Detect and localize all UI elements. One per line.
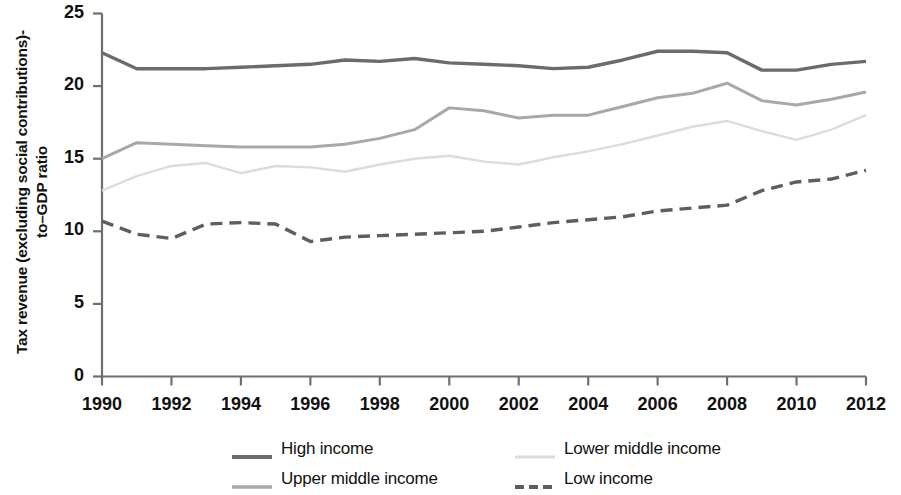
series-line-upper-middle-income bbox=[102, 83, 866, 159]
legend-label-high-income: High income bbox=[281, 439, 373, 459]
legend-label-low-income: Low income bbox=[564, 469, 653, 489]
series-line-high-income bbox=[102, 51, 866, 70]
legend-item-upper-middle-income[interactable]: Upper middle income bbox=[232, 469, 438, 489]
chart-legend: High income Lower middle income Upper mi… bbox=[232, 434, 792, 494]
series-line-low-income bbox=[102, 170, 866, 241]
series-line-lower-middle-income bbox=[102, 115, 866, 191]
data-series-group bbox=[102, 51, 866, 241]
legend-item-low-income[interactable]: Low income bbox=[515, 469, 653, 489]
legend-label-upper-middle-income: Upper middle income bbox=[281, 469, 438, 489]
chart-figure: Tax revenue (excluding social contributi… bbox=[0, 0, 901, 495]
legend-item-high-income[interactable]: High income bbox=[232, 439, 373, 459]
legend-item-lower-middle-income[interactable]: Lower middle income bbox=[515, 439, 721, 459]
legend-row-1: High income Lower middle income bbox=[232, 436, 373, 462]
legend-row-2: Upper middle income Low income bbox=[232, 466, 438, 492]
legend-label-lower-middle-income: Lower middle income bbox=[564, 439, 721, 459]
plot-area bbox=[0, 0, 901, 495]
